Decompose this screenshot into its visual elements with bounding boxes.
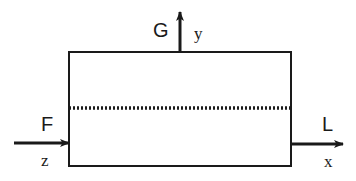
label-G: G	[153, 19, 169, 41]
label-F: F	[41, 113, 53, 135]
label-y: y	[194, 24, 203, 43]
label-x: x	[324, 152, 333, 171]
label-z: z	[41, 151, 49, 170]
beam-diagram: G y F z L x	[0, 0, 356, 181]
label-L: L	[322, 113, 333, 135]
